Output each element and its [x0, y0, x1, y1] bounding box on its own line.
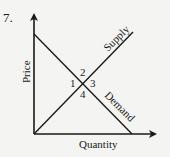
y-axis-label: Price	[20, 60, 32, 83]
region-3-label: 3	[90, 77, 96, 89]
x-axis-label: Quantity	[79, 138, 118, 150]
problem-number: 7.	[3, 10, 13, 25]
demand-label: Demand	[103, 89, 138, 124]
region-2-label: 2	[80, 66, 86, 78]
supply-line	[34, 32, 133, 134]
supply-demand-diagram: 7. Supply Demand 2 1 3 4 Quantity Price	[0, 0, 170, 157]
region-1-label: 1	[70, 77, 76, 89]
region-4-label: 4	[80, 88, 86, 100]
